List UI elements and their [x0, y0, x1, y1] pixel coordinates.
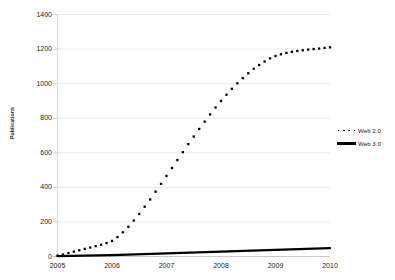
x-tick-label-2006: 2006 [90, 262, 134, 269]
dotted-line-marker-icon [336, 126, 357, 135]
chart-legend: Web 2.0 Web 3.0 [336, 124, 395, 150]
x-tick-label-2005: 2005 [36, 262, 80, 269]
x-tick-label-2008: 2008 [199, 262, 243, 269]
legend-item-web-3-0[interactable]: Web 3.0 [336, 137, 395, 150]
x-tick-label-2010: 2010 [308, 262, 352, 269]
legend-label-web-3-0: Web 3.0 [357, 140, 381, 147]
publications-line-chart: Publications 0200400600800100012001400 2… [0, 0, 395, 280]
legend-item-web-2-0[interactable]: Web 2.0 [336, 124, 395, 137]
x-tick-label-2007: 2007 [145, 262, 189, 269]
solid-line-marker-icon [336, 139, 357, 148]
legend-label-web-2-0: Web 2.0 [357, 127, 381, 134]
x-tick-label-2009: 2009 [254, 262, 298, 269]
